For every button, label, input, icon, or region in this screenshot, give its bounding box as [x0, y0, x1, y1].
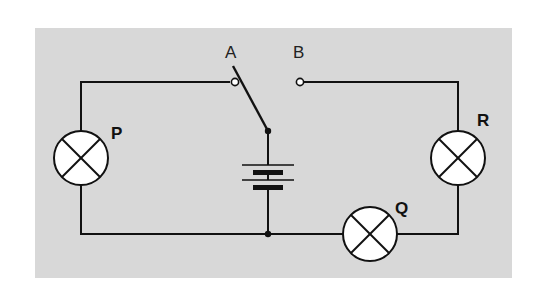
switch-pivot-dot	[265, 128, 271, 134]
terminal-a	[231, 78, 238, 85]
bulb-r-icon	[431, 131, 485, 185]
label-terminal-a: A	[225, 43, 237, 62]
bottom-junction-dot	[265, 231, 271, 237]
label-bulb-q: Q	[395, 199, 408, 218]
bulb-q-icon	[343, 207, 397, 261]
terminal-b	[296, 78, 303, 85]
label-bulb-r: R	[477, 111, 489, 130]
bulb-p-icon	[54, 131, 108, 185]
circuit-diagram: A B P Q R	[0, 0, 541, 287]
label-bulb-p: P	[111, 124, 122, 143]
label-terminal-b: B	[293, 43, 304, 62]
